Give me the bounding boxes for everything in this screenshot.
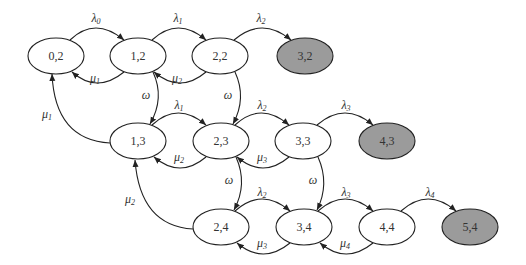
edge-1-2-to-1-3	[150, 72, 158, 124]
label-lambda-1: λ1	[173, 98, 183, 113]
edge-3-3-to-3-4	[317, 157, 324, 210]
label-mu-1: μ1	[89, 71, 100, 86]
node-label: 0,2	[49, 49, 64, 63]
node-2-2: 2,2	[192, 38, 248, 74]
node-label: 2,4	[214, 220, 229, 234]
edge-3-4-to-4-4	[318, 199, 373, 211]
label-lambda-0: λ0	[90, 11, 100, 26]
edge-2-3-to-3-3	[235, 113, 289, 125]
edge-2-4-to-3-4	[235, 199, 290, 211]
label-mu-3: μ3	[256, 236, 267, 251]
node-label: 1,3	[131, 134, 146, 148]
node-4-4: 4,4	[359, 209, 415, 245]
node-3-3: 3,3	[275, 123, 331, 159]
label-lambda-4: λ4	[424, 185, 434, 200]
edge-2-4-to-1-3	[135, 160, 193, 229]
edge-2-2-to-2-3	[233, 72, 241, 124]
node-label: 4,4	[380, 220, 395, 234]
node-label: 4,3	[380, 134, 395, 148]
label-lambda-3: λ3	[340, 98, 350, 113]
node-2-3: 2,3	[193, 123, 249, 159]
node-1-3: 1,3	[110, 123, 166, 159]
node-4-3-absorbing: 4,3	[359, 123, 415, 159]
edge-2-3-to-2-4	[234, 157, 242, 210]
node-3-4: 3,4	[276, 209, 332, 245]
label-lambda-1: λ1	[172, 11, 182, 26]
label-lambda-2: λ2	[256, 185, 266, 200]
node-label: 3,3	[296, 134, 311, 148]
label-omega: ω	[142, 88, 150, 102]
label-mu-1: μ1	[41, 107, 52, 122]
label-lambda-2: λ2	[256, 98, 266, 113]
label-mu-2: μ2	[173, 150, 184, 165]
state-diagram: 0,2 1,2 2,2 3,2 1,3 2,3 3,3 4,3 2,4 3,4 …	[0, 0, 526, 265]
edge-3-3-to-4-3	[317, 113, 373, 125]
edge-1-3-to-0-2	[52, 74, 110, 143]
node-label: 1,2	[131, 49, 146, 63]
edge-1-2-to-2-2	[152, 28, 206, 40]
edge-4-4-to-5-4	[401, 199, 456, 211]
node-label: 5,4	[463, 220, 478, 234]
node-3-2-absorbing: 3,2	[277, 38, 333, 74]
node-2-4: 2,4	[193, 209, 249, 245]
label-omega: ω	[224, 88, 232, 102]
label-lambda-3: λ3	[340, 185, 350, 200]
label-mu-4: μ4	[339, 236, 350, 251]
label-omega: ω	[309, 173, 317, 187]
node-label: 3,4	[297, 220, 312, 234]
edge-0-2-to-1-2	[70, 28, 124, 40]
label-mu-2: μ2	[124, 192, 135, 207]
node-1-2: 1,2	[110, 38, 166, 74]
node-label: 2,3	[214, 134, 229, 148]
node-label: 2,2	[213, 49, 228, 63]
label-mu-3: μ3	[256, 150, 267, 165]
edge-1-3-to-2-3	[152, 113, 206, 125]
node-0-2: 0,2	[28, 38, 84, 74]
edge-2-2-to-3-2	[234, 28, 291, 40]
label-lambda-2: λ2	[255, 11, 265, 26]
label-mu-2: μ2	[171, 71, 182, 86]
label-omega: ω	[225, 173, 233, 187]
node-5-4-absorbing: 5,4	[442, 209, 498, 245]
node-label: 3,2	[298, 49, 313, 63]
